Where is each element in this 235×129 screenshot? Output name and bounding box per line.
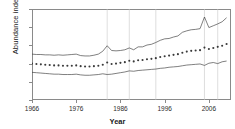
x-axis-tick: [165, 100, 166, 103]
x-axis-tick: [120, 100, 121, 103]
x-axis-tick: [76, 100, 77, 103]
x-axis-tick: [209, 100, 210, 103]
plot-area: 051015202519661976198619962006: [32, 9, 231, 100]
y-axis-tick: [29, 64, 32, 65]
y-axis-tick: [29, 27, 32, 28]
x-axis-tick-label: 1986: [103, 105, 137, 112]
x-axis-tick-label: 2006: [192, 105, 226, 112]
chart-figure: Abundance index 051015202519661976198619…: [0, 0, 235, 129]
x-axis-tick: [32, 100, 33, 103]
x-axis-tick-label: 1966: [15, 105, 49, 112]
x-axis-title: Year: [0, 117, 235, 126]
y-axis-title: Abundance index: [11, 0, 20, 68]
y-axis-tick: [29, 82, 32, 83]
y-axis-tick: [29, 45, 32, 46]
y-axis-tick: [29, 9, 32, 10]
x-axis-tick-label: 1976: [59, 105, 93, 112]
x-axis-tick-label: 1996: [148, 105, 182, 112]
chart-svg: [32, 9, 231, 100]
